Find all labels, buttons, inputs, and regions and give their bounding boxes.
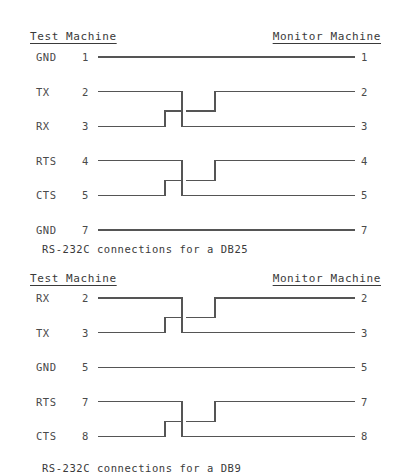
wire-paths-db25 <box>0 0 395 250</box>
pin-number-left: 7 <box>82 396 88 408</box>
pin-number-right: 1 <box>361 51 367 63</box>
pin-number-left: 2 <box>82 292 88 304</box>
signal-label: TX <box>36 86 50 98</box>
pin-number-left: 5 <box>82 189 88 201</box>
pin-number-left: 5 <box>82 361 88 373</box>
signal-label: GND <box>36 224 56 236</box>
signal-label: TX <box>36 327 50 339</box>
wire-crossover-up-right <box>186 92 355 111</box>
pin-number-left: 7 <box>82 224 88 236</box>
wire-crossover-up-left <box>98 317 182 332</box>
pin-number-left: 1 <box>82 51 88 63</box>
wire-crossover-up-left <box>98 111 182 126</box>
wire-crossover-up-left <box>98 180 182 195</box>
wire-crossover-up-left <box>98 421 182 436</box>
caption-db9: RS-232C connections for a DB9 <box>42 462 241 474</box>
diagram-db25: Test Machine Monitor Machine RS-232C con… <box>0 0 395 250</box>
signal-label: CTS <box>36 189 56 201</box>
wire-crossover-down <box>98 161 355 196</box>
pin-number-right: 8 <box>361 430 367 442</box>
wire-crossover-down <box>98 298 355 333</box>
pin-number-right: 2 <box>361 86 367 98</box>
wire-crossover-up-right <box>186 161 355 180</box>
signal-label: GND <box>36 361 56 373</box>
pin-number-right: 2 <box>361 292 367 304</box>
wire-paths-db9 <box>0 250 395 475</box>
pin-number-right: 4 <box>361 155 367 167</box>
wire-crossover-up-right <box>186 298 355 317</box>
wire-crossover-up-right <box>186 402 355 421</box>
signal-label: RTS <box>36 396 56 408</box>
signal-label: GND <box>36 51 56 63</box>
signal-label: RX <box>36 292 50 304</box>
signal-label: CTS <box>36 430 56 442</box>
pin-number-left: 8 <box>82 430 88 442</box>
rs232-wiring-figure: Test Machine Monitor Machine RS-232C con… <box>0 0 395 475</box>
pin-number-right: 7 <box>361 396 367 408</box>
pin-number-right: 3 <box>361 120 367 132</box>
signal-label: RX <box>36 120 50 132</box>
diagram-db9: Test Machine Monitor Machine RS-232C con… <box>0 250 395 475</box>
pin-number-right: 3 <box>361 327 367 339</box>
wire-crossover-down <box>98 92 355 127</box>
pin-number-right: 7 <box>361 224 367 236</box>
pin-number-right: 5 <box>361 189 367 201</box>
pin-number-left: 2 <box>82 86 88 98</box>
signal-label: RTS <box>36 155 56 167</box>
pin-number-left: 4 <box>82 155 88 167</box>
pin-number-right: 5 <box>361 361 367 373</box>
wire-crossover-down <box>98 402 355 437</box>
pin-number-left: 3 <box>82 327 88 339</box>
pin-number-left: 3 <box>82 120 88 132</box>
